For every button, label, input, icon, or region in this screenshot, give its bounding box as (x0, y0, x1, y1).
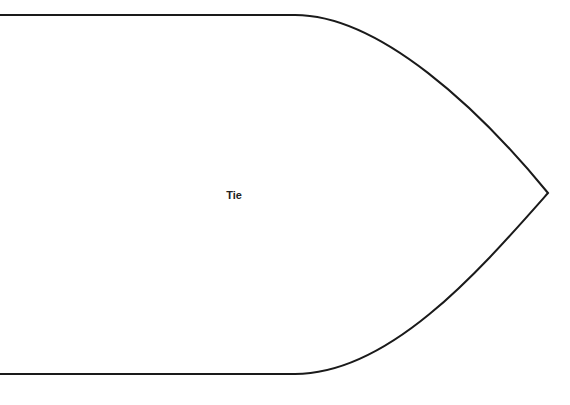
shape-label: Tie (214, 189, 254, 201)
tie-shape (0, 0, 570, 405)
tie-outline (0, 15, 548, 374)
